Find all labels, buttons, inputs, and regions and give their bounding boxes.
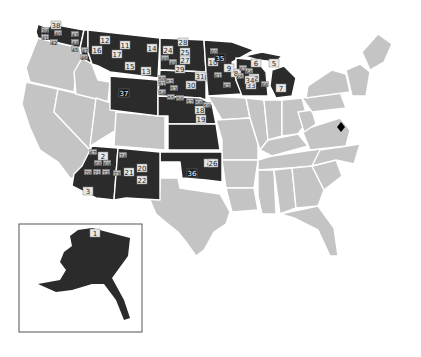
map-label: 53	[171, 86, 178, 92]
state-kansas	[168, 124, 220, 150]
map-label: 56	[177, 96, 184, 102]
svg-text:21: 21	[125, 169, 134, 177]
map-label: 42	[51, 40, 58, 46]
svg-text:12: 12	[101, 37, 110, 45]
map-label: 16	[92, 46, 102, 55]
svg-text:65: 65	[237, 74, 243, 80]
svg-text:28: 28	[179, 39, 188, 47]
svg-text:27: 27	[181, 57, 190, 65]
map-label: 36	[187, 169, 197, 178]
map-label: 1	[90, 229, 100, 238]
svg-text:74: 74	[120, 153, 126, 159]
svg-text:62: 62	[224, 83, 230, 89]
svg-text:54: 54	[159, 90, 165, 96]
map-label: 38	[51, 21, 61, 30]
map-label: 26	[208, 159, 218, 168]
svg-text:22: 22	[138, 177, 147, 185]
svg-text:20: 20	[138, 165, 147, 173]
svg-text:6: 6	[254, 60, 259, 68]
map-label: 14	[147, 44, 157, 53]
map-label: 74	[120, 153, 127, 159]
svg-text:72: 72	[103, 170, 109, 176]
map-label: 62	[224, 83, 231, 89]
svg-text:73: 73	[114, 171, 120, 177]
svg-text:43: 43	[72, 32, 78, 38]
map-label: 51	[159, 81, 166, 87]
svg-text:37: 37	[120, 90, 129, 98]
map-label: 40	[55, 31, 62, 37]
map-label: 25	[180, 48, 190, 57]
svg-text:1: 1	[93, 230, 97, 238]
svg-text:49: 49	[170, 60, 176, 66]
map-label: 21	[124, 168, 134, 177]
map-label: 20	[137, 164, 147, 173]
svg-text:68: 68	[95, 161, 101, 167]
map-label: 48	[162, 56, 169, 62]
svg-text:41: 41	[42, 35, 48, 41]
svg-text:51: 51	[159, 81, 165, 87]
svg-text:29: 29	[176, 66, 185, 74]
map-label: 67	[90, 150, 97, 156]
map-label: 12	[100, 36, 110, 45]
us-map: 1234567891011121314151617181920212223242…	[0, 0, 421, 357]
svg-text:64: 64	[246, 69, 252, 75]
map-label: 39	[42, 28, 49, 34]
svg-text:5: 5	[272, 60, 276, 68]
svg-text:69: 69	[104, 161, 110, 167]
map-label: 34	[245, 76, 255, 85]
map-label: 17	[112, 50, 122, 59]
map-label: 35	[215, 54, 225, 63]
map-svg: 1234567891011121314151617181920212223242…	[0, 0, 421, 357]
map-label: 13	[141, 67, 151, 76]
map-label: 73	[114, 171, 121, 177]
svg-text:70: 70	[85, 170, 91, 176]
svg-text:60: 60	[211, 49, 217, 55]
state-wyoming	[110, 76, 158, 116]
svg-text:57: 57	[187, 99, 193, 105]
map-label: 49	[170, 60, 177, 66]
svg-text:53: 53	[171, 86, 177, 92]
map-label: 65	[237, 74, 244, 80]
svg-text:14: 14	[148, 45, 157, 53]
svg-text:11: 11	[121, 42, 130, 50]
svg-text:55: 55	[168, 95, 174, 101]
map-label: 30	[186, 81, 196, 90]
svg-text:7: 7	[279, 85, 283, 93]
svg-text:31: 31	[196, 73, 205, 81]
svg-text:66: 66	[262, 82, 268, 88]
svg-text:56: 56	[177, 96, 183, 102]
map-label: 28	[178, 38, 188, 47]
map-label: 45	[72, 47, 79, 53]
svg-text:44: 44	[72, 40, 78, 46]
map-label: 52	[167, 79, 174, 85]
map-label: 55	[168, 95, 175, 101]
svg-text:46: 46	[81, 55, 87, 61]
map-label: 24	[163, 46, 173, 55]
svg-text:25: 25	[181, 49, 190, 57]
svg-text:35: 35	[216, 55, 225, 63]
map-label: 47	[82, 48, 89, 54]
map-label: 44	[72, 40, 79, 46]
map-label: 9	[224, 64, 234, 73]
svg-text:34: 34	[246, 77, 255, 85]
map-label: 60	[211, 49, 218, 55]
map-label: 46	[81, 55, 88, 61]
svg-text:2: 2	[101, 153, 105, 161]
svg-text:38: 38	[52, 22, 61, 30]
svg-text:42: 42	[51, 40, 57, 46]
map-label: 5	[269, 59, 279, 68]
map-label: 2	[98, 152, 108, 161]
map-label: 66	[262, 82, 269, 88]
svg-text:58: 58	[196, 100, 202, 106]
svg-text:17: 17	[113, 51, 122, 59]
map-label: 61	[215, 73, 222, 79]
map-label: 57	[187, 99, 194, 105]
state-michigan-lower	[270, 66, 296, 98]
svg-text:52: 52	[167, 79, 173, 85]
svg-text:61: 61	[215, 73, 221, 79]
map-label: 41	[42, 35, 49, 41]
svg-text:30: 30	[187, 82, 196, 90]
map-label: 11	[120, 41, 130, 50]
map-label: 15	[125, 62, 135, 71]
map-label: 59	[204, 103, 211, 109]
